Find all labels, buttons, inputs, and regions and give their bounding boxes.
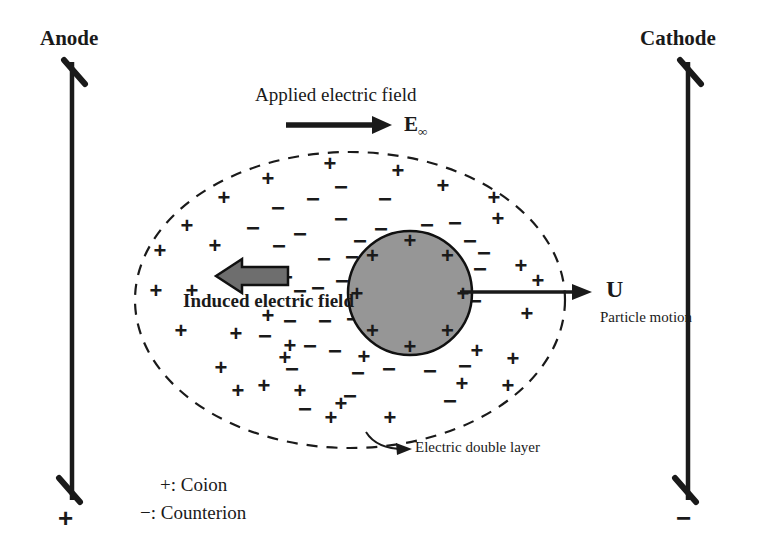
- anode-electrode: [59, 60, 85, 502]
- applied-field-symbol: E∞: [404, 114, 427, 138]
- counterion-symbol: −: [378, 185, 392, 212]
- coion-symbol: +: [521, 301, 534, 326]
- coion-symbol: +: [258, 373, 271, 398]
- anode-label: Anode: [40, 28, 98, 49]
- counterion-symbol: −: [334, 205, 348, 232]
- coion-symbol: +: [392, 158, 405, 183]
- coion-symbol: +: [324, 151, 337, 176]
- counterion-symbol: −: [423, 357, 437, 384]
- coion-symbol: +: [492, 206, 505, 231]
- coion-symbol: +: [294, 378, 307, 403]
- counterion-symbol: −: [334, 173, 348, 200]
- particle-surface-charge: +: [441, 318, 454, 343]
- legend-item-counterion: −: Counterion: [140, 503, 246, 522]
- coion-symbol: +: [437, 173, 450, 198]
- electrophoresis-diagram: −−−−−−−−−−−−−−−−−−−−−−−−−−−−−−−−−−−−−−−−…: [0, 0, 759, 550]
- coion-symbol: +: [384, 405, 397, 430]
- applied-field-symbol-subscript: ∞: [418, 124, 427, 139]
- particle-motion-arrow-head: [572, 284, 592, 300]
- diagram-canvas: −−−−−−−−−−−−−−−−−−−−−−−−−−−−−−−−−−−−−−−−…: [0, 0, 759, 550]
- counterion-symbol: −: [246, 214, 260, 241]
- applied-field-arrow-head: [372, 116, 392, 134]
- counterion-symbol: −: [328, 337, 342, 364]
- double-layer-leader-arrowhead: [396, 443, 412, 455]
- anode-sign: +: [58, 505, 73, 531]
- coion-symbol: +: [279, 345, 292, 370]
- coion-symbol: +: [181, 213, 194, 238]
- counterion-symbol: −: [271, 194, 285, 221]
- coion-symbol: +: [218, 185, 231, 210]
- counterion-symbol: −: [463, 227, 477, 254]
- coion-symbol: +: [502, 373, 515, 398]
- legend-item-coion: +: Coion: [160, 475, 227, 494]
- coion-symbol: +: [532, 268, 545, 293]
- particle-surface-charge: +: [404, 334, 417, 359]
- particle-surface-charge: +: [441, 243, 454, 268]
- coion-symbol: +: [215, 355, 228, 380]
- coion-symbol: +: [471, 338, 484, 363]
- coion-symbol: +: [456, 371, 469, 396]
- particle-surface-charge: +: [366, 243, 379, 268]
- coion-symbol: +: [515, 253, 528, 278]
- coion-symbol: +: [358, 344, 371, 369]
- counterion-symbol: −: [306, 185, 320, 212]
- coion-symbol: +: [232, 378, 245, 403]
- coion-symbol: +: [150, 278, 163, 303]
- counterion-symbol: −: [303, 332, 317, 359]
- counterion-symbol: −: [473, 255, 487, 282]
- induced-field-label: Induced electric field: [183, 291, 354, 310]
- coion-symbol: +: [230, 321, 243, 346]
- coion-symbol: +: [507, 346, 520, 371]
- particle-motion-caption: Particle motion: [600, 310, 692, 325]
- counterion-symbol: −: [382, 355, 396, 382]
- coion-symbol: +: [209, 233, 222, 258]
- applied-field-label: Applied electric field: [255, 85, 416, 104]
- particle-surface-charge: +: [404, 228, 417, 253]
- counterion-symbol: −: [293, 220, 307, 247]
- cathode-sign: −: [676, 505, 691, 531]
- coion-symbol: +: [262, 166, 275, 191]
- coion-symbol: +: [175, 318, 188, 343]
- coion-symbol: +: [325, 405, 338, 430]
- applied-field-symbol-base: E: [404, 112, 418, 136]
- cathode-electrode: [675, 60, 701, 502]
- particle-surface-charge: +: [366, 318, 379, 343]
- double-layer-label: Electric double layer: [415, 440, 540, 455]
- particle-velocity-symbol: U: [606, 277, 623, 301]
- coion-symbol: +: [154, 238, 167, 263]
- cathode-label: Cathode: [640, 28, 716, 49]
- counterion-symbol: −: [448, 209, 462, 236]
- counterion-symbol: −: [272, 232, 286, 259]
- counterion-symbol: −: [317, 245, 331, 272]
